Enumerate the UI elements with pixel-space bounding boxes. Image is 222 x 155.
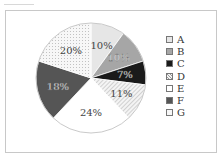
legend-label: D [177,71,185,82]
legend-label: B [177,46,184,57]
pie-chart: 10%10%7%11%24%18%20% [0,0,222,155]
legend-label: E [177,83,184,94]
legend-item-c: C [166,58,185,70]
legend-label: C [177,58,185,69]
swatch-icon [166,60,173,67]
swatch-icon [166,97,173,104]
legend-label: G [177,107,185,118]
legend-item-g: G [166,107,185,119]
swatch-icon [166,48,173,55]
slice-label-f: 18% [47,81,69,92]
legend-label: A [177,34,184,45]
legend-item-e: E [166,82,185,94]
slice-label-b: 10% [107,52,129,63]
swatch-icon [166,109,173,116]
swatch-icon [166,73,173,80]
swatch-icon [166,36,173,43]
legend-item-d: D [166,70,185,82]
slice-label-c: 7% [117,69,133,80]
legend-label: F [177,95,184,106]
slice-label-g: 20% [60,45,82,56]
swatch-icon [166,85,173,92]
legend-item-b: B [166,45,185,57]
legend-item-f: F [166,94,185,106]
slice-label-d: 11% [110,88,132,99]
slice-label-e: 24% [80,107,102,118]
legend: A B C D E F G [166,33,185,119]
legend-item-a: A [166,33,185,45]
slice-label-a: 10% [90,40,112,51]
